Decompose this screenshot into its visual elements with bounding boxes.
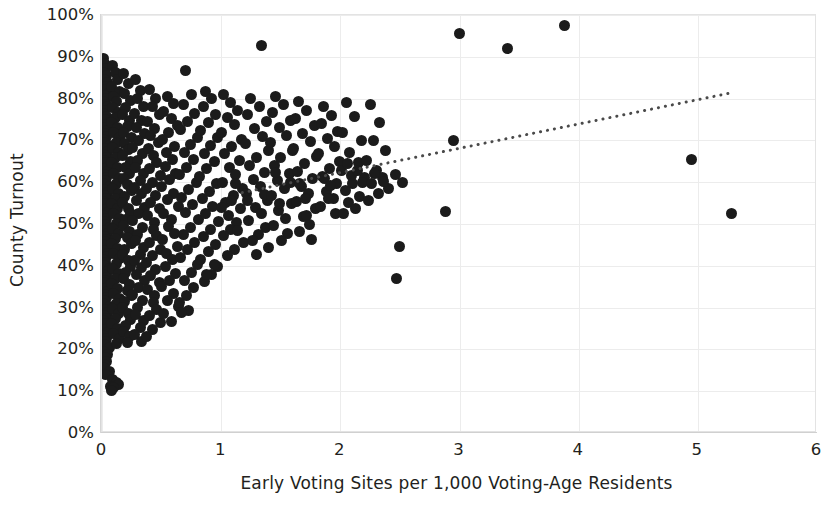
data-point [368, 135, 379, 146]
data-point [216, 202, 227, 213]
data-point [305, 136, 316, 147]
data-point [352, 165, 363, 176]
y-tick-label: 60% [40, 172, 94, 191]
data-point [300, 193, 311, 204]
plot-area [101, 14, 816, 432]
y-tick-label: 40% [40, 255, 94, 274]
data-point [281, 130, 292, 141]
data-point [288, 143, 299, 154]
data-point [180, 65, 191, 76]
gridline-horizontal [102, 182, 815, 183]
data-point [263, 242, 274, 253]
data-point [301, 105, 312, 116]
data-point [157, 134, 168, 145]
data-point [448, 135, 459, 146]
data-point [340, 185, 351, 196]
data-point [144, 310, 155, 321]
data-point [380, 145, 391, 156]
data-point [363, 195, 374, 206]
data-point [356, 135, 367, 146]
data-point [454, 28, 465, 39]
data-point [240, 138, 251, 149]
data-point [141, 331, 152, 342]
data-point [247, 235, 258, 246]
data-point [502, 43, 513, 54]
data-point [325, 180, 336, 191]
gridline-horizontal [102, 391, 815, 392]
data-point [397, 177, 408, 188]
data-point [267, 107, 278, 118]
data-point [178, 99, 189, 110]
data-point [268, 220, 279, 231]
y-tick-label: 80% [40, 88, 94, 107]
x-tick-label: 3 [439, 440, 479, 459]
data-point [256, 208, 267, 219]
y-axis-title-label: County Turnout [7, 153, 27, 287]
data-point [144, 237, 155, 248]
data-point [166, 316, 177, 327]
data-point [366, 178, 377, 189]
data-point [290, 113, 301, 124]
data-point [394, 241, 405, 252]
data-point [194, 171, 205, 182]
x-tick-label: 6 [796, 440, 828, 459]
data-point [186, 89, 197, 100]
trendline [102, 15, 815, 431]
y-tick-label: 0% [40, 423, 94, 442]
data-point [326, 110, 337, 121]
y-axis-tick-labels: 0%10%20%30%40%50%60%70%80%90%100% [34, 0, 94, 509]
data-point [242, 195, 253, 206]
y-tick-label: 70% [40, 130, 94, 149]
data-point [349, 111, 360, 122]
y-axis-title: County Turnout [0, 0, 34, 440]
y-tick-label: 50% [40, 214, 94, 233]
data-point [199, 148, 210, 159]
data-point [209, 259, 220, 270]
data-point [337, 127, 348, 138]
data-point [234, 155, 245, 166]
x-tick-label: 0 [81, 440, 121, 459]
scatter-chart: County Turnout 0%10%20%30%40%50%60%70%80… [0, 0, 828, 509]
x-axis-line [101, 432, 817, 433]
data-point [232, 225, 243, 236]
data-point [156, 281, 167, 292]
data-point [313, 148, 324, 159]
data-point [217, 177, 228, 188]
gridline-horizontal [102, 308, 815, 309]
gridline-horizontal [102, 57, 815, 58]
data-point [265, 137, 276, 148]
y-tick-label: 90% [40, 46, 94, 65]
data-point [329, 141, 340, 152]
data-point [338, 208, 349, 219]
y-tick-label: 100% [40, 5, 94, 24]
y-tick-label: 10% [40, 381, 94, 400]
x-tick-label: 5 [677, 440, 717, 459]
data-point [440, 206, 451, 217]
data-point [200, 208, 211, 219]
data-point [157, 234, 168, 245]
data-point [111, 338, 122, 349]
data-point [222, 250, 233, 261]
data-point [341, 97, 352, 108]
data-point [160, 261, 171, 272]
gridline-horizontal [102, 15, 815, 16]
data-point [280, 213, 291, 224]
data-point [242, 109, 253, 120]
data-point [686, 154, 697, 165]
data-point [373, 188, 384, 199]
data-point [361, 155, 372, 166]
data-point [118, 68, 129, 79]
x-tick-label: 1 [200, 440, 240, 459]
data-point [172, 241, 183, 252]
data-point [559, 20, 570, 31]
gridline-vertical [340, 15, 341, 431]
data-point [342, 158, 353, 169]
data-point [369, 168, 380, 179]
data-point [378, 176, 389, 187]
data-point [219, 148, 230, 159]
data-point [350, 203, 361, 214]
data-point [162, 295, 173, 306]
data-point [316, 118, 327, 129]
data-point [229, 119, 240, 130]
data-point [365, 99, 376, 110]
